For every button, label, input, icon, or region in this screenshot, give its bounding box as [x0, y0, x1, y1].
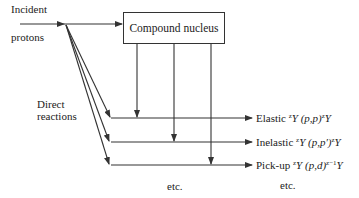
outcome-elastic: Elastic zY (p,p)zY — [256, 112, 331, 124]
compound-nucleus-label: Compound nucleus — [129, 22, 218, 34]
etc-right-label: etc. — [280, 179, 296, 191]
outcome-pickup: Pick-up zY (p,d)z−1Y — [256, 159, 343, 171]
compound-nucleus-box: Compound nucleus — [123, 12, 225, 44]
reactions-label: reactions — [37, 110, 77, 122]
outcome-inelastic: Inelastic zY (p,p′)zY — [256, 136, 341, 148]
incident-label: Incident — [11, 3, 47, 15]
etc-left-label: etc. — [167, 180, 183, 192]
direct-label: Direct — [37, 98, 64, 110]
protons-label: protons — [11, 31, 44, 43]
